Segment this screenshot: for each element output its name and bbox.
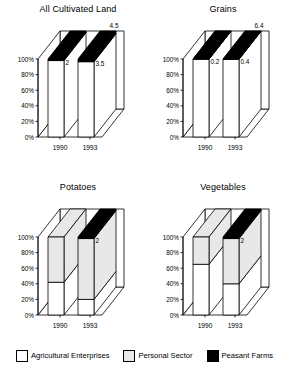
- chart-panel-vegetables: Vegetables 0%20%40%60%80%100%199019932: [145, 182, 289, 352]
- svg-text:0%: 0%: [170, 312, 180, 319]
- svg-text:2: 2: [241, 237, 245, 244]
- svg-text:2: 2: [66, 59, 70, 66]
- svg-text:60%: 60%: [21, 265, 34, 272]
- svg-text:1990: 1990: [53, 144, 68, 151]
- svg-text:1990: 1990: [198, 322, 213, 329]
- chart-plot: 0%20%40%60%80%100%199019932: [0, 182, 144, 352]
- legend-swatch-personal-sector: [123, 350, 135, 362]
- svg-text:1993: 1993: [228, 144, 243, 151]
- svg-text:80%: 80%: [166, 249, 179, 256]
- svg-text:40%: 40%: [166, 280, 179, 287]
- svg-text:100%: 100%: [18, 234, 35, 241]
- svg-text:80%: 80%: [166, 71, 179, 78]
- legend-item: Personal Sector: [123, 350, 192, 362]
- legend-label: Peasant Farms: [222, 352, 274, 360]
- svg-text:80%: 80%: [21, 249, 34, 256]
- svg-text:0.4: 0.4: [241, 58, 250, 65]
- svg-text:20%: 20%: [166, 118, 179, 125]
- svg-text:3.5: 3.5: [96, 60, 105, 67]
- svg-text:1993: 1993: [83, 144, 98, 151]
- svg-text:1993: 1993: [83, 322, 98, 329]
- legend-label: Agricultural Enterprises: [31, 352, 110, 360]
- legend-label: Personal Sector: [138, 352, 192, 360]
- svg-text:1990: 1990: [53, 322, 68, 329]
- svg-text:100%: 100%: [163, 234, 180, 241]
- svg-text:40%: 40%: [21, 280, 34, 287]
- svg-text:60%: 60%: [21, 87, 34, 94]
- svg-text:0%: 0%: [25, 312, 35, 319]
- svg-text:1993: 1993: [228, 322, 243, 329]
- svg-text:0%: 0%: [170, 134, 180, 141]
- svg-text:0%: 0%: [25, 134, 35, 141]
- svg-text:40%: 40%: [21, 102, 34, 109]
- chart-grid: All Cultivated Land 0%20%40%60%80%100%19…: [0, 0, 289, 340]
- legend-swatch-peasant-farms: [207, 350, 219, 362]
- svg-text:6.4: 6.4: [255, 22, 264, 29]
- svg-text:20%: 20%: [21, 118, 34, 125]
- svg-text:1990: 1990: [198, 144, 213, 151]
- svg-text:4.5: 4.5: [110, 22, 119, 29]
- chart-panel-potatoes: Potatoes 0%20%40%60%80%100%199019932: [0, 182, 144, 352]
- legend-item: Peasant Farms: [207, 350, 274, 362]
- chart-legend: Agricultural Enterprises Personal Sector…: [0, 341, 289, 371]
- chart-panel-grains: Grains 0%20%40%60%80%100%199019930.26.40…: [145, 4, 289, 174]
- svg-text:2: 2: [96, 237, 100, 244]
- svg-text:20%: 20%: [21, 296, 34, 303]
- svg-text:100%: 100%: [18, 56, 35, 63]
- svg-text:100%: 100%: [163, 56, 180, 63]
- svg-text:0.2: 0.2: [211, 58, 220, 65]
- svg-text:60%: 60%: [166, 265, 179, 272]
- svg-text:20%: 20%: [166, 296, 179, 303]
- svg-text:40%: 40%: [166, 102, 179, 109]
- chart-plot: 0%20%40%60%80%100%1990199323.54.5: [0, 4, 144, 174]
- chart-plot: 0%20%40%60%80%100%199019930.26.40.4: [145, 4, 289, 174]
- chart-panel-all-cultivated-land: All Cultivated Land 0%20%40%60%80%100%19…: [0, 4, 144, 174]
- chart-plot: 0%20%40%60%80%100%199019932: [145, 182, 289, 352]
- svg-text:80%: 80%: [21, 71, 34, 78]
- legend-swatch-agricultural-enterprises: [16, 350, 28, 362]
- svg-text:60%: 60%: [166, 87, 179, 94]
- legend-item: Agricultural Enterprises: [16, 350, 110, 362]
